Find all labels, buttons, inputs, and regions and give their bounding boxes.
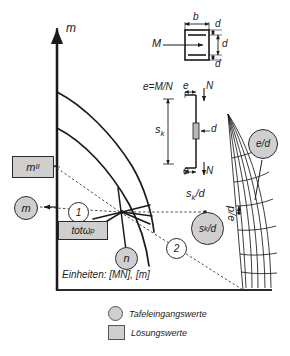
badge-m-second-order-superscript: II — [35, 163, 39, 171]
node-ray-a — [122, 205, 150, 212]
badge-tot-omega[interactable]: tot ωp — [58, 221, 108, 240]
figure-root: m M b d d d e=M/N e N e N d sk sk/d p/e … — [0, 0, 290, 356]
badge-step-1[interactable]: 1 — [68, 202, 89, 223]
diagram-vector-layer — [0, 0, 290, 356]
nomogram-pe-label: p/e — [226, 206, 237, 221]
legend-circle-swatch — [108, 306, 123, 321]
column-axial-bottom-label: N — [206, 166, 213, 176]
column-bottom-eccentricity-label: e — [183, 166, 189, 176]
badge-sk-over-d-input[interactable]: sk/d — [191, 212, 224, 245]
legend-box-swatch — [108, 325, 125, 340]
axis-label-m: m — [66, 22, 76, 34]
cross-section-cover-bottom-label: d — [215, 59, 221, 69]
badge-n-input[interactable]: n — [115, 247, 138, 270]
legend-label-solution: Lösungswerte — [131, 328, 187, 338]
buckling-length-subscript: k — [161, 129, 165, 138]
badge-e-over-d-input[interactable]: e/d — [248, 129, 278, 159]
skd-axis-tail: /d — [195, 187, 204, 199]
eccentricity-formula: e=M/N — [143, 82, 173, 92]
cross-section-depth-label: d — [222, 39, 228, 49]
cross-section-width-label: b — [193, 12, 199, 22]
legend-item-table-input: Tafeleingangswerte — [108, 306, 207, 321]
badge-step-2[interactable]: 2 — [166, 238, 187, 259]
column-detail — [163, 88, 210, 175]
badge-skd-tail: /d — [208, 224, 216, 234]
interaction-curve-lower — [57, 128, 149, 266]
badge-tot-omega-prefix: tot — [72, 226, 83, 236]
badge-m-input[interactable]: m — [14, 196, 38, 220]
column-top-eccentricity-label: e — [183, 81, 189, 91]
badge-m-second-order-symbol: m — [26, 162, 35, 173]
buckling-length-label: sk — [155, 124, 164, 138]
badge-m-second-order[interactable]: mII — [12, 156, 54, 178]
nomogram-skd-axis-label: sk/d — [186, 188, 205, 202]
units-note: Einheiten: [MN], [m] — [62, 270, 150, 280]
legend-label-table-input: Tafeleingangswerte — [129, 309, 207, 319]
legend-item-solution: Lösungswerte — [108, 325, 187, 340]
cross-section-moment-label: M — [152, 38, 161, 49]
column-thickness-label: d — [211, 124, 217, 134]
column-axial-top-label: N — [206, 81, 213, 91]
badge-tot-omega-subscript: p — [90, 227, 94, 234]
cross-section-detail — [163, 22, 222, 60]
cross-section-cover-top-label: d — [215, 19, 221, 29]
